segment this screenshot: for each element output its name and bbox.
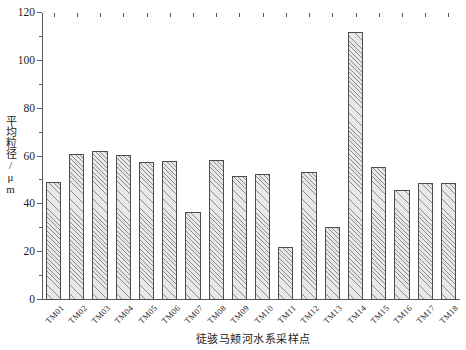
- y-minor-tick: [39, 179, 42, 180]
- y-tick-20: 20: [42, 251, 43, 252]
- x-tick-label-TM13: TM13: [322, 303, 345, 326]
- y-minor-tick: [39, 275, 42, 276]
- x-tick-label-TM05: TM05: [136, 303, 159, 326]
- x-axis-title-text: 徒骇马颊河水系采样点: [196, 333, 311, 345]
- bar-TM02: [69, 154, 84, 300]
- bar-TM10: [255, 174, 270, 300]
- x-tick-mark: [77, 13, 78, 17]
- x-tick-label-TM11: TM11: [275, 303, 297, 325]
- x-tick-mark: [425, 13, 426, 17]
- bar-TM14: [348, 32, 363, 300]
- y-tick-100: 100: [42, 60, 43, 61]
- y-minor-tick: [39, 132, 42, 133]
- chart-figure: 平均粒径/μm 020406080100120 TM01TM02TM03TM04…: [0, 0, 466, 350]
- x-tick-label-TM01: TM01: [43, 303, 66, 326]
- x-tick-mark: [193, 13, 194, 17]
- bar-TM08: [209, 160, 224, 300]
- y-axis-title: 平均粒径/μm: [2, 105, 18, 205]
- x-tick-mark: [402, 13, 403, 17]
- y-tick-80: 80: [42, 108, 43, 109]
- plot-area: 020406080100120: [42, 13, 460, 300]
- x-tick-label-TM12: TM12: [298, 303, 321, 326]
- x-tick-mark: [239, 13, 240, 17]
- x-tick-mark: [147, 13, 148, 17]
- x-tick-mark: [356, 13, 357, 17]
- bar-TM05: [139, 162, 154, 300]
- x-axis-title: 徒骇马颊河水系采样点: [0, 330, 466, 346]
- bar-TM17: [418, 183, 433, 300]
- x-tick-mark: [332, 13, 333, 17]
- bar-TM04: [116, 155, 131, 300]
- x-tick-mark: [448, 13, 449, 17]
- bar-TM15: [371, 167, 386, 300]
- bar-TM16: [394, 190, 409, 300]
- y-tick-60: 60: [42, 156, 43, 157]
- x-tick-label-TM10: TM10: [252, 303, 275, 326]
- x-tick-label-TM03: TM03: [89, 303, 112, 326]
- y-tick-label: 0: [29, 293, 35, 305]
- x-tick-label-TM02: TM02: [66, 303, 89, 326]
- x-tick-label-TM04: TM04: [113, 303, 136, 326]
- y-axis-line: [42, 13, 43, 300]
- x-axis-tick-labels: TM01TM02TM03TM04TM05TM06TM07TM08TM09TM10…: [42, 300, 460, 330]
- y-tick-label: 40: [24, 197, 36, 209]
- y-tick-mark: [37, 12, 42, 13]
- x-tick-mark: [100, 13, 101, 17]
- x-tick-mark: [216, 13, 217, 17]
- bar-TM12: [301, 172, 316, 300]
- x-tick-label-TM06: TM06: [159, 303, 182, 326]
- bar-TM09: [232, 176, 247, 300]
- y-tick-mark: [37, 108, 42, 109]
- bar-TM03: [92, 151, 107, 300]
- x-tick-label-TM14: TM14: [345, 303, 368, 326]
- x-tick-mark: [54, 13, 55, 17]
- bar-TM18: [441, 183, 456, 300]
- y-tick-label: 80: [24, 102, 36, 114]
- x-tick-mark: [286, 13, 287, 17]
- x-tick-mark: [379, 13, 380, 17]
- y-tick-label: 120: [18, 6, 35, 18]
- x-tick-mark: [123, 13, 124, 17]
- bar-TM11: [278, 247, 293, 300]
- x-tick-label-TM17: TM17: [415, 303, 438, 326]
- bar-TM13: [325, 227, 340, 300]
- x-tick-label-TM16: TM16: [391, 303, 414, 326]
- y-tick-label: 20: [24, 245, 36, 257]
- bar-TM06: [162, 161, 177, 300]
- x-tick-label-TM07: TM07: [182, 303, 205, 326]
- x-tick-label-TM08: TM08: [206, 303, 229, 326]
- y-tick-40: 40: [42, 203, 43, 204]
- y-tick-mark: [37, 203, 42, 204]
- bar-TM07: [185, 212, 200, 300]
- x-tick-label-TM15: TM15: [368, 303, 391, 326]
- y-tick-mark: [37, 156, 42, 157]
- y-axis-title-text: 平均粒径/μm: [4, 115, 17, 195]
- bar-TM01: [46, 182, 61, 300]
- y-minor-tick: [39, 227, 42, 228]
- y-tick-label: 60: [24, 150, 36, 162]
- x-tick-mark: [170, 13, 171, 17]
- x-tick-mark: [263, 13, 264, 17]
- x-tick-mark: [309, 13, 310, 17]
- y-minor-tick: [39, 36, 42, 37]
- y-tick-mark: [37, 60, 42, 61]
- y-tick-label: 100: [18, 54, 35, 66]
- x-tick-label-TM18: TM18: [438, 303, 461, 326]
- y-minor-tick: [39, 84, 42, 85]
- y-tick-mark: [37, 251, 42, 252]
- x-tick-label-TM09: TM09: [229, 303, 252, 326]
- y-tick-120: 120: [42, 12, 43, 13]
